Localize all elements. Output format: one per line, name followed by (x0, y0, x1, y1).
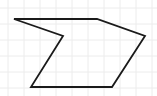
diagram-canvas (0, 0, 157, 96)
grid (0, 0, 157, 96)
polygon-diagram (0, 0, 157, 96)
concave-hexagon-shape (14, 19, 145, 87)
